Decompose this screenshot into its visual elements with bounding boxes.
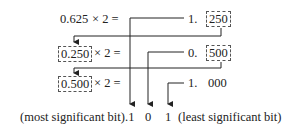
msb-label: (most significant bit) <box>20 110 125 124</box>
row3-multiplicand-box: 0.500 <box>58 76 92 92</box>
bit-1: .1 <box>125 110 134 124</box>
row2-fraction-box: 500 <box>206 45 231 61</box>
bit-3: 1 <box>165 110 171 124</box>
lsb-label: (least significant bit) <box>178 110 281 124</box>
row3-fraction: 000 <box>208 76 227 90</box>
row2-operator: × 2 = <box>94 46 121 60</box>
row2-integer-part: 0. <box>188 46 197 60</box>
row1-fraction-box: 250 <box>206 11 231 27</box>
row2-multiplicand-box: 0.250 <box>58 46 92 62</box>
connector-lines <box>0 0 292 128</box>
row1-integer-part: 1. <box>188 12 197 26</box>
row3-operator: × 2 = <box>94 76 121 90</box>
row3-integer-part: 1. <box>188 76 197 90</box>
row1-multiplicand: 0.625 <box>60 12 88 26</box>
bit-2: 0 <box>145 110 151 124</box>
row1-operator: × 2 = <box>92 12 119 26</box>
